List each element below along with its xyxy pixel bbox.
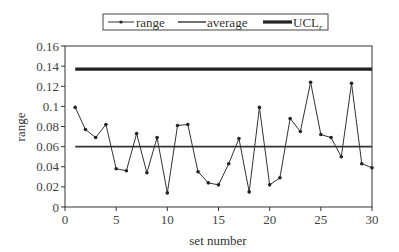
x-tick-label: 20 <box>263 212 276 227</box>
data-point-marker <box>196 170 200 174</box>
data-point-marker <box>350 81 354 85</box>
data-point-marker <box>370 166 374 170</box>
data-point-marker <box>268 183 272 187</box>
y-tick-label: 0.06 <box>36 139 59 154</box>
data-point-marker <box>258 106 262 110</box>
data-point-marker <box>186 123 190 127</box>
data-point-marker <box>299 130 303 134</box>
x-tick-label: 10 <box>161 212 174 227</box>
x-tick-label: 15 <box>212 212 225 227</box>
x-tick-label: 0 <box>62 212 69 227</box>
legend-label-ucl: UCLr <box>293 15 323 32</box>
data-point-marker <box>94 136 98 140</box>
x-tick-label: 30 <box>366 212 379 227</box>
data-point-marker <box>73 106 77 110</box>
legend-label-range: range <box>136 15 165 30</box>
data-point-marker <box>340 155 344 159</box>
data-point-marker <box>237 137 241 141</box>
data-point-marker <box>176 124 180 128</box>
data-point-marker <box>104 123 108 127</box>
series-range-line <box>75 82 372 193</box>
data-point-marker <box>278 176 282 180</box>
y-tick-label: 0.14 <box>36 59 59 74</box>
y-axis: 00.020.040.060.080.10.120.140.16 <box>36 39 65 215</box>
y-tick-label: 0.12 <box>36 79 59 94</box>
data-point-marker <box>135 132 139 136</box>
y-tick-label: 0.16 <box>36 39 59 54</box>
data-point-marker <box>227 162 231 166</box>
data-point-marker <box>114 167 118 171</box>
y-tick-label: 0.04 <box>36 159 59 174</box>
data-point-marker <box>155 136 159 140</box>
data-point-marker <box>125 169 129 173</box>
control-chart: range average UCLr 00.020.040.060.080.10… <box>0 0 399 252</box>
y-tick-label: 0 <box>53 200 60 215</box>
y-tick-label: 0.1 <box>43 99 59 114</box>
legend-label-average: average <box>207 15 248 30</box>
x-axis-title: set number <box>189 233 247 248</box>
y-axis-title: range <box>13 112 28 141</box>
x-tick-label: 5 <box>113 212 120 227</box>
series-layer <box>73 69 373 195</box>
data-point-marker <box>360 162 364 166</box>
data-point-marker <box>288 117 292 121</box>
data-point-marker <box>84 128 88 132</box>
data-point-marker <box>145 171 149 175</box>
legend: range average UCLr <box>103 14 328 32</box>
data-point-marker <box>247 190 251 194</box>
data-point-marker <box>319 133 323 137</box>
data-point-marker <box>309 80 313 84</box>
x-tick-label: 25 <box>314 212 327 227</box>
y-tick-label: 0.08 <box>36 119 59 134</box>
range-marker-swatch-icon <box>119 20 122 23</box>
data-point-marker <box>206 181 210 185</box>
data-point-marker <box>166 191 170 195</box>
data-point-marker <box>329 136 333 140</box>
y-tick-label: 0.02 <box>36 179 59 194</box>
x-axis: 051015202530 <box>62 207 379 227</box>
data-point-marker <box>217 183 221 187</box>
